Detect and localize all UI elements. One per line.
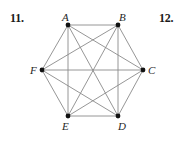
graph-vertex-a — [66, 23, 71, 28]
graph-vertex-f — [40, 68, 45, 73]
graph-vertex-label-b: B — [119, 12, 126, 23]
graph-vertex-d — [116, 114, 121, 119]
graph-edge-ef — [42, 70, 68, 116]
figure-canvas: 11. 12. ABCDEF — [0, 0, 176, 142]
graph-vertex-c — [141, 68, 146, 73]
graph-vertex-e — [66, 114, 71, 119]
graph-vertex-b — [116, 23, 121, 28]
graph-vertex-label-a: A — [62, 12, 69, 23]
graph-vertex-label-e: E — [62, 121, 69, 132]
graph-vertex-label-f: F — [30, 65, 37, 76]
graph-edge-af — [42, 25, 68, 70]
graph-edge-layer — [42, 25, 143, 116]
graph-edge-cd — [118, 70, 143, 116]
graph-edge-bc — [118, 25, 143, 70]
graph-vertex-label-d: D — [118, 121, 126, 132]
graph-vertex-label-c: C — [148, 65, 155, 76]
